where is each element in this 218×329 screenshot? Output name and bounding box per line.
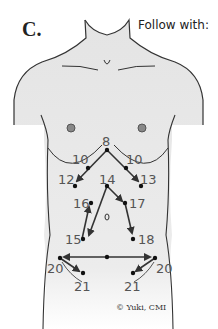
point-15: 15 xyxy=(65,232,82,247)
point-13: 13 xyxy=(140,172,157,187)
point-10-right: 10 xyxy=(126,152,143,167)
torso-diagram: 8 10 10 12 13 14 16 17 15 18 20 20 21 21… xyxy=(0,0,218,329)
point-21-left: 21 xyxy=(74,279,91,294)
point-20-right: 20 xyxy=(156,261,173,276)
point-21-right: 21 xyxy=(124,279,141,294)
point-14: 14 xyxy=(99,172,116,187)
point-8: 8 xyxy=(102,134,110,149)
left-nipple-icon xyxy=(67,124,75,132)
point-10-left: 10 xyxy=(72,152,89,167)
point-17: 17 xyxy=(129,196,146,211)
point-12: 12 xyxy=(58,172,75,187)
point-16: 16 xyxy=(73,196,90,211)
point-20-left: 20 xyxy=(47,261,64,276)
point-18: 18 xyxy=(138,232,155,247)
copyright-text: © Yuki, CMI xyxy=(116,303,166,312)
right-nipple-icon xyxy=(138,124,146,132)
